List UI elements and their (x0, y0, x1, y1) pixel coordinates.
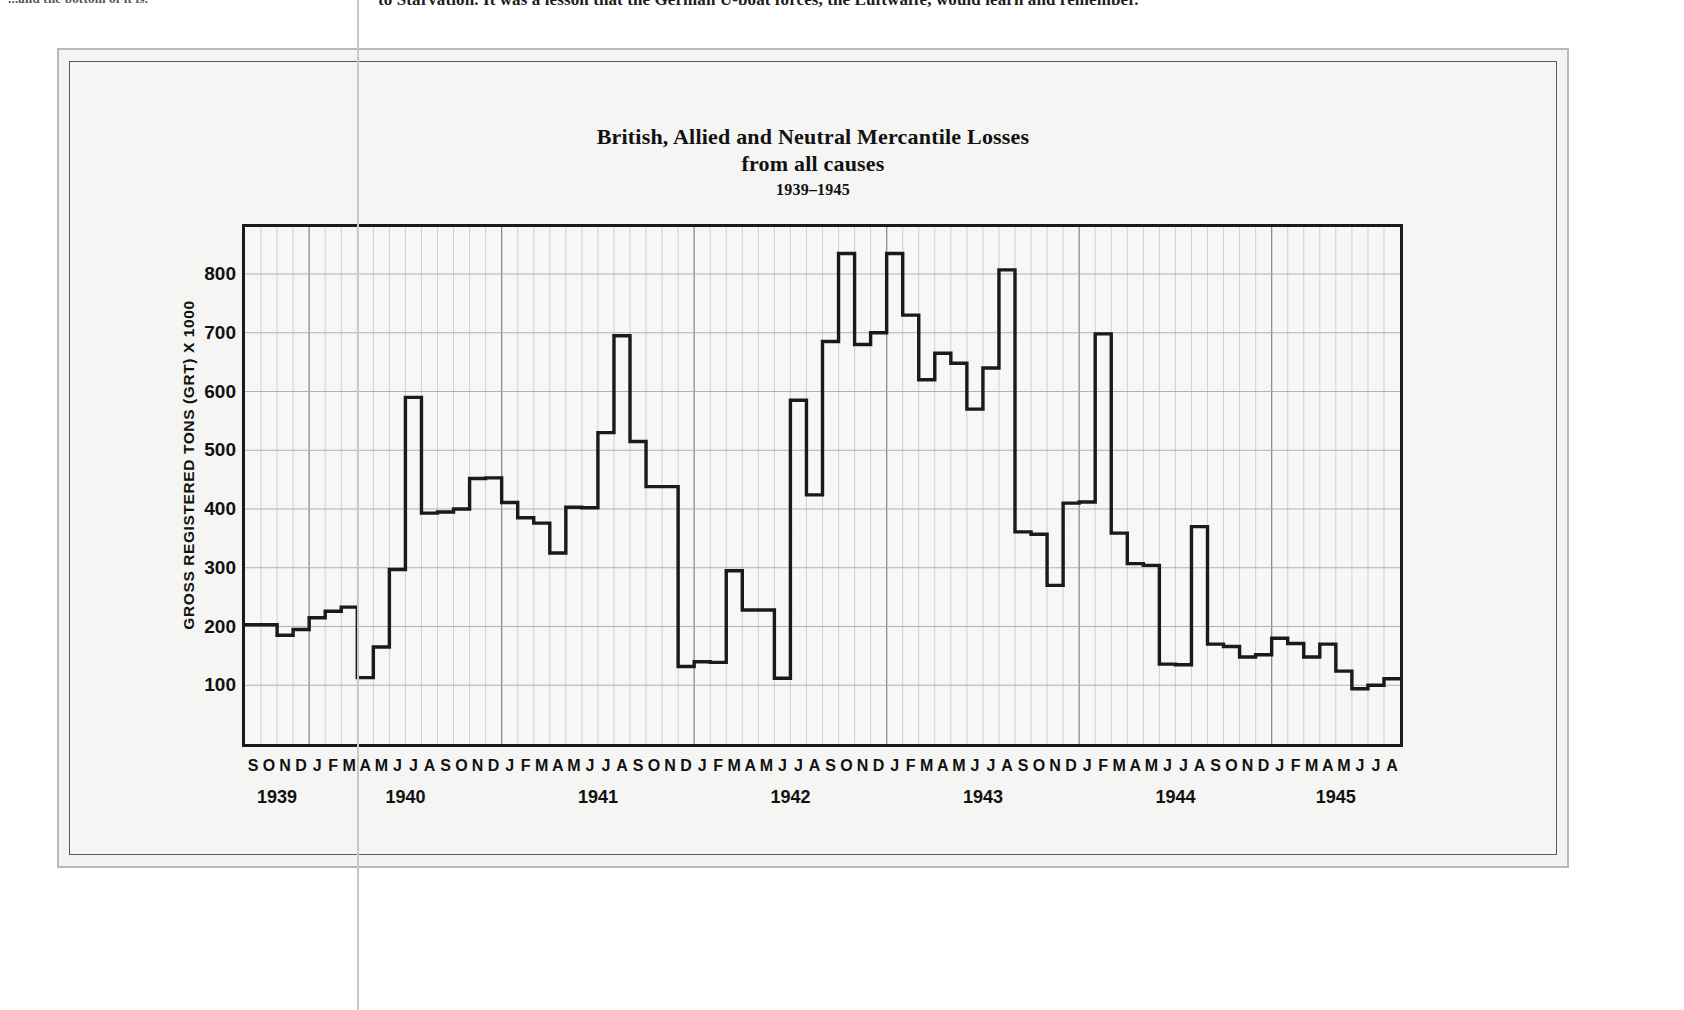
x-month-label: N (279, 757, 291, 775)
page-top-bleed-text: ...and the bottom of it is. to Starvatio… (0, 0, 1684, 20)
x-axis-year-labels: 1939194019411942194319441945 (245, 787, 1400, 813)
y-tick-label-400: 400 (204, 498, 236, 520)
y-tick-label-600: 600 (204, 381, 236, 403)
x-month-label: O (648, 757, 660, 775)
x-month-label: J (1371, 757, 1380, 775)
x-month-label: A (1322, 757, 1334, 775)
bleed-text-right: to Starvation. It was a lesson that the … (378, 0, 1139, 10)
x-month-label: J (794, 757, 803, 775)
x-month-label: F (1291, 757, 1301, 775)
y-tick-label-100: 100 (204, 674, 236, 696)
x-month-label: A (360, 757, 372, 775)
x-month-label: J (1179, 757, 1188, 775)
x-month-label: D (1065, 757, 1077, 775)
x-month-label: N (664, 757, 676, 775)
bleed-text-left: ...and the bottom of it is. (8, 0, 148, 7)
chart-title-block: British, Allied and Neutral Mercantile L… (70, 124, 1556, 202)
x-month-label: M (728, 757, 741, 775)
x-month-label: O (455, 757, 467, 775)
x-axis-month-labels: SONDJFMAMJJASONDJFMAMJJASONDJFMAMJJASOND… (245, 757, 1400, 781)
x-month-label: F (521, 757, 531, 775)
x-year-label-1945: 1945 (1316, 787, 1356, 808)
x-month-label: S (633, 757, 644, 775)
x-month-label: O (1033, 757, 1045, 775)
x-month-label: J (601, 757, 610, 775)
x-month-label: A (937, 757, 949, 775)
x-month-label: J (393, 757, 402, 775)
x-month-label: J (505, 757, 514, 775)
x-month-label: A (1386, 757, 1398, 775)
x-year-label-1939: 1939 (257, 787, 297, 808)
x-month-label: D (873, 757, 885, 775)
x-month-label: J (1355, 757, 1364, 775)
y-tick-label-500: 500 (204, 439, 236, 461)
x-month-label: F (713, 757, 723, 775)
x-month-label: A (1001, 757, 1013, 775)
x-month-label: D (1258, 757, 1270, 775)
x-month-label: J (313, 757, 322, 775)
x-month-label: J (409, 757, 418, 775)
x-month-label: S (825, 757, 836, 775)
x-month-label: O (263, 757, 275, 775)
x-month-label: M (1337, 757, 1350, 775)
x-month-label: M (920, 757, 933, 775)
figure-plate-outer-border: British, Allied and Neutral Mercantile L… (57, 48, 1569, 868)
x-month-label: A (809, 757, 821, 775)
x-month-label: O (840, 757, 852, 775)
x-month-label: A (552, 757, 564, 775)
x-month-label: M (567, 757, 580, 775)
y-axis-title: GROSS REGISTERED TONS (GRT) X 1000 (180, 300, 198, 629)
x-month-label: M (760, 757, 773, 775)
chart-subtitle: from all causes (70, 151, 1556, 178)
x-month-label: S (1018, 757, 1029, 775)
x-month-label: J (585, 757, 594, 775)
y-tick-label-300: 300 (204, 557, 236, 579)
x-month-label: S (248, 757, 259, 775)
x-month-label: N (1242, 757, 1254, 775)
chart-period: 1939–1945 (70, 178, 1556, 202)
x-month-label: M (1113, 757, 1126, 775)
x-month-label: F (906, 757, 916, 775)
x-month-label: M (1145, 757, 1158, 775)
y-tick-label-700: 700 (204, 322, 236, 344)
x-month-label: J (970, 757, 979, 775)
x-month-label: N (472, 757, 484, 775)
x-year-label-1940: 1940 (385, 787, 425, 808)
x-year-label-1944: 1944 (1155, 787, 1195, 808)
x-month-label: M (375, 757, 388, 775)
chart-title: British, Allied and Neutral Mercantile L… (70, 124, 1556, 151)
x-year-label-1942: 1942 (770, 787, 810, 808)
figure-plate-inner-border: British, Allied and Neutral Mercantile L… (69, 61, 1557, 855)
scan-seam-line (357, 0, 359, 1010)
x-month-label: F (1098, 757, 1108, 775)
x-month-label: M (535, 757, 548, 775)
x-month-label: J (1163, 757, 1172, 775)
x-month-label: O (1225, 757, 1237, 775)
x-month-label: M (1305, 757, 1318, 775)
x-month-label: A (745, 757, 757, 775)
x-month-label: D (680, 757, 692, 775)
x-month-label: J (698, 757, 707, 775)
x-year-label-1941: 1941 (578, 787, 618, 808)
x-month-label: J (890, 757, 899, 775)
x-month-label: J (1275, 757, 1284, 775)
x-month-label: S (1210, 757, 1221, 775)
x-month-label: M (343, 757, 356, 775)
x-month-label: A (616, 757, 628, 775)
x-month-label: J (986, 757, 995, 775)
x-month-label: A (1130, 757, 1142, 775)
plot-frame: GROSS REGISTERED TONS (GRT) X 1000 10020… (242, 224, 1403, 747)
x-month-label: J (778, 757, 787, 775)
y-tick-label-800: 800 (204, 263, 236, 285)
x-month-label: S (440, 757, 451, 775)
x-month-label: F (328, 757, 338, 775)
x-month-label: J (1083, 757, 1092, 775)
x-month-label: A (1194, 757, 1206, 775)
x-month-label: D (295, 757, 307, 775)
x-month-label: A (424, 757, 436, 775)
x-month-label: M (952, 757, 965, 775)
x-month-label: D (488, 757, 500, 775)
y-tick-label-200: 200 (204, 616, 236, 638)
x-year-label-1943: 1943 (963, 787, 1003, 808)
x-month-label: N (1049, 757, 1061, 775)
